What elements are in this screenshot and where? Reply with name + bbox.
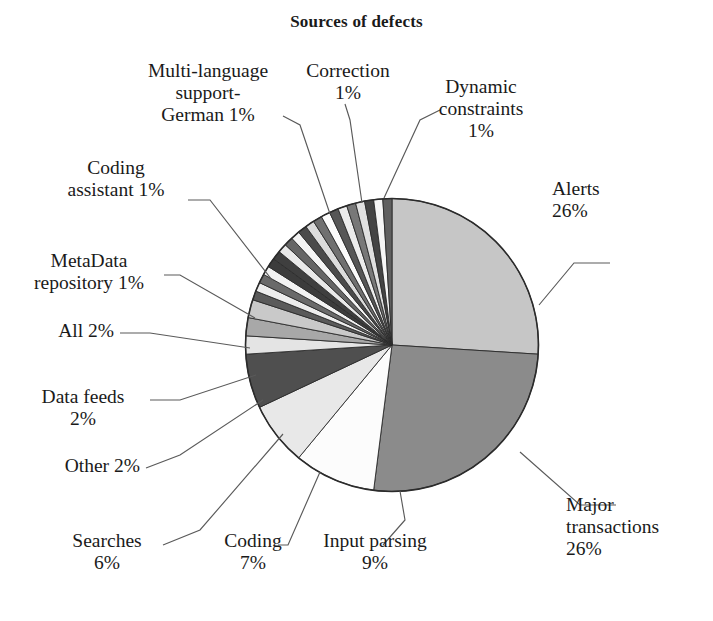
pie-slice-alerts [392, 199, 538, 355]
slice-label-multi-language: Multi-language support- German 1% [130, 60, 286, 125]
slice-label-other: Other 2% [6, 455, 140, 477]
slice-label-correction: Correction 1% [288, 60, 408, 104]
leader-line-all [120, 333, 250, 348]
leader-line-correction [345, 104, 362, 203]
slice-label-major-transactions: Major transactions 26% [566, 494, 706, 559]
leader-line-multi-language [283, 116, 330, 214]
slice-label-data-feeds: Data feeds 2% [20, 386, 146, 430]
leader-line-metadata-repository [164, 275, 255, 318]
chart-page: Sources of defects Alerts 26% Major tran… [0, 0, 713, 621]
slice-label-metadata-repository: MetaData repository 1% [14, 250, 164, 294]
leader-line-alerts [539, 263, 610, 305]
slice-label-coding: Coding 7% [211, 530, 295, 574]
slice-label-coding-assistant: Coding assistant 1% [42, 157, 190, 201]
slice-label-input-parsing: Input parsing 9% [300, 530, 450, 574]
leader-line-searches [163, 434, 283, 545]
slice-label-searches: Searches 6% [52, 530, 162, 574]
pie-slice-group [246, 199, 539, 492]
leader-line-other [146, 400, 263, 468]
slice-label-alerts: Alerts 26% [552, 178, 672, 222]
leader-line-data-feeds [150, 375, 256, 400]
slice-label-dynamic-constraints: Dynamic constraints 1% [406, 76, 556, 141]
slice-label-all: All 2% [6, 320, 114, 342]
leader-line-coding-assistant [188, 200, 272, 280]
pie-slice-major-transactions [374, 345, 539, 491]
